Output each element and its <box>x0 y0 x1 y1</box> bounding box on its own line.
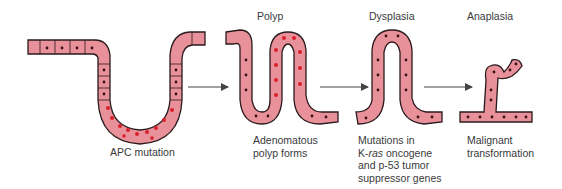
caption-dysplasia: Mutations in K-ras oncogene and p-53 tum… <box>358 134 441 184</box>
caption-polyp: Adenomatous polyp forms <box>253 134 318 159</box>
dysplasia-illustration <box>356 30 442 124</box>
stage-title-polyp: Polyp <box>257 10 283 23</box>
anaplasia-illustration <box>460 60 532 122</box>
caption-anaplasia: Malignant transformation <box>467 134 534 159</box>
stage-title-anaplasia: Anaplasia <box>467 10 513 23</box>
caption-normal: APC mutation <box>110 146 175 159</box>
colorectal-cancer-progression-diagram <box>0 0 562 189</box>
stage-title-dysplasia: Dysplasia <box>369 10 415 23</box>
normal-epithelium-illustration <box>28 32 205 144</box>
polyp-illustration <box>226 30 338 124</box>
